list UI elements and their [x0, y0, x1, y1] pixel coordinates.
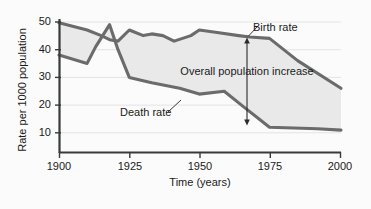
y-axis-title: Rate per 1000 population — [16, 20, 28, 160]
y-tick-label-30: 30 — [29, 70, 51, 82]
y-tick-label-50: 50 — [29, 15, 51, 27]
x-axis-title: Time (years) — [130, 176, 270, 188]
x-tick-label-1925: 1925 — [110, 160, 150, 172]
chart-figure: 50 40 30 20 10 1900 1925 1950 1975 2000 … — [0, 0, 371, 209]
x-tick-label-1975: 1975 — [250, 160, 290, 172]
x-tick-label-1950: 1950 — [180, 160, 220, 172]
overall-increase-label: Overall population increase — [177, 64, 317, 78]
death-rate-label: Death rate — [120, 106, 171, 118]
x-tick-label-2000: 2000 — [320, 160, 360, 172]
x-tick-label-1900: 1900 — [39, 160, 79, 172]
y-tick-label-20: 20 — [29, 98, 51, 110]
birth-rate-label: Birth rate — [253, 21, 298, 33]
y-tick-label-40: 40 — [29, 43, 51, 55]
y-tick-label-10: 10 — [29, 126, 51, 138]
